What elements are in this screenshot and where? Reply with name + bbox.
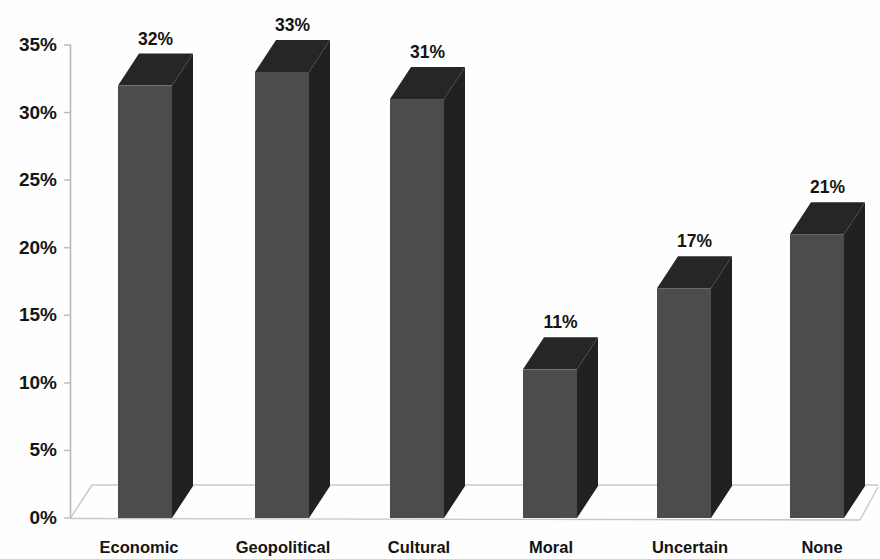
chart-container: 35% 30% 25% 20% 15% 10% 5% 0%: [0, 0, 880, 559]
y-tick-label: 15%: [19, 304, 57, 325]
bar-value-label: 21%: [810, 177, 845, 197]
y-tick-label: 5%: [30, 439, 58, 460]
bar-value-label: 11%: [543, 312, 577, 332]
x-category-label: Cultural: [388, 538, 450, 556]
bar-group[interactable]: [255, 40, 330, 518]
bar-front-face: [523, 369, 577, 518]
bar-group[interactable]: [657, 256, 732, 518]
bar-front-face: [118, 86, 172, 518]
bar-value-label: 31%: [410, 42, 445, 62]
bar-side-face: [309, 40, 330, 518]
bar-group[interactable]: [118, 54, 193, 518]
x-category-label: Economic: [100, 538, 179, 556]
bar-group[interactable]: [523, 337, 598, 518]
bar-side-face: [711, 256, 732, 518]
bar-chart: 35% 30% 25% 20% 15% 10% 5% 0%: [0, 0, 880, 559]
bar-side-face: [844, 202, 865, 518]
bar-front-face: [790, 234, 844, 518]
x-category-label: Geopolitical: [236, 538, 330, 556]
x-category-label: None: [801, 538, 842, 556]
y-tick-label: 0%: [30, 507, 58, 528]
bar-front-face: [255, 72, 309, 518]
bar-front-face: [390, 99, 444, 518]
bar-side-face: [444, 67, 465, 518]
bar-group[interactable]: [790, 202, 865, 518]
y-tick-label: 35%: [19, 34, 57, 55]
bar-front-face: [657, 288, 711, 518]
bar-value-label: 17%: [677, 231, 712, 251]
y-tick-label: 25%: [19, 169, 57, 190]
y-tick-label: 10%: [19, 372, 57, 393]
bar-value-label: 32%: [138, 29, 173, 49]
bar-value-label: 33%: [275, 15, 310, 35]
y-tick-label: 30%: [19, 102, 57, 123]
x-category-label: Moral: [529, 538, 573, 556]
bar-side-face: [172, 54, 193, 518]
x-category-label: Uncertain: [652, 538, 728, 556]
bar-group[interactable]: [390, 67, 465, 518]
y-tick-label: 20%: [19, 237, 57, 258]
